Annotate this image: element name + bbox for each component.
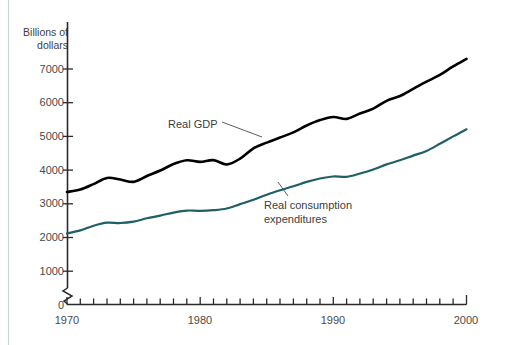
chart-plot-area [0,0,516,345]
series-line-real-gdp [67,59,467,192]
x-tick-marks [67,295,467,305]
leader-line-real-gdp [222,122,262,137]
chart-figure: Billions of dollars 7000 6000 5000 4000 … [0,0,516,345]
